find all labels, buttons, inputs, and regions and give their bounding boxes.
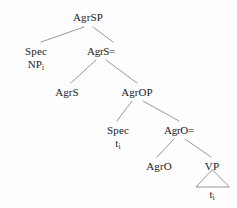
node-vp-label: VP	[205, 160, 219, 172]
node-agrs-bar: AgrS=	[87, 45, 115, 57]
node-agrs-head: AgrS	[55, 86, 79, 98]
node-vp: VP	[205, 160, 219, 172]
branch-agro-bar-to-agro-head	[157, 139, 174, 157]
node-agrs-bar-label: AgrS=	[87, 45, 115, 57]
node-trace-vp-text: ti	[209, 188, 214, 204]
tree-branches	[0, 0, 237, 208]
syntax-tree-figure: AgrSP Spec NPi AgrS= AgrS AgrOP Spec ti …	[0, 0, 237, 208]
node-agrs-head-label: AgrS	[55, 86, 79, 98]
node-trace-vp-subscript: i	[213, 193, 215, 202]
node-np-trace-label: NPi	[25, 58, 47, 74]
vp-triangle-icon	[196, 170, 229, 187]
node-trace-agrop-label: ti	[107, 137, 129, 153]
branch-agrop-to-agro-bar	[143, 101, 179, 121]
node-np-base: NP	[28, 58, 42, 70]
node-spec-agrop: Spec ti	[107, 124, 129, 153]
node-agrop: AgrOP	[121, 86, 153, 98]
node-agrsp: AgrSP	[73, 11, 103, 23]
node-agro-bar: AgrO=	[164, 124, 194, 136]
branch-agrs-bar-to-agrs-head	[71, 60, 96, 83]
node-spec-agrsp-label: Spec	[25, 45, 47, 57]
node-trace-vp: ti	[209, 188, 214, 204]
node-agro-bar-label: AgrO=	[164, 124, 194, 136]
node-trace-agrop-subscript: i	[119, 142, 121, 151]
branch-agrsp-to-agrs-bar	[93, 27, 113, 42]
branch-agrop-to-spec	[117, 101, 132, 121]
node-np-subscript: i	[42, 63, 44, 72]
branch-agrsp-to-spec	[41, 27, 84, 42]
node-agrop-label: AgrOP	[121, 86, 153, 98]
node-spec-agrsp: Spec NPi	[25, 45, 47, 74]
branch-agrs-bar-to-agrop	[106, 60, 137, 83]
node-agro-head-label: AgrO	[146, 160, 171, 172]
branch-agro-bar-to-vp	[185, 139, 211, 157]
node-spec-agrop-label: Spec	[107, 124, 129, 136]
node-agrsp-label: AgrSP	[73, 11, 103, 23]
node-agro-head: AgrO	[146, 160, 171, 172]
